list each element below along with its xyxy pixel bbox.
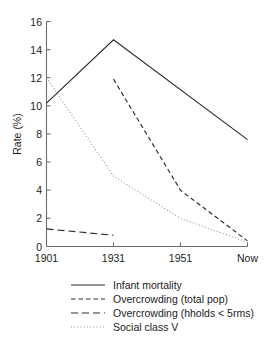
y-tick-label-4: 4 <box>36 184 42 196</box>
y-tick-label-6: 6 <box>36 156 42 168</box>
series-line-overcrowding-total-pop <box>114 79 248 241</box>
x-tick-label-1901: 1901 <box>35 252 59 264</box>
x-tick-label-1951: 1951 <box>169 252 193 264</box>
series-line-infant-mortality <box>47 40 248 140</box>
y-tick-label-12: 12 <box>30 72 42 84</box>
y-tick-label-8: 8 <box>36 128 42 140</box>
chart-figure: 16 14 12 10 8 6 4 2 0 1901 1931 1951 Now… <box>0 0 271 343</box>
legend-label-overcrowding-total-pop: Overcrowding (total pop) <box>113 293 228 305</box>
legend-label-overcrowding-hholds: Overcrowding (hholds < 5rms) <box>113 307 254 319</box>
y-tick-label-14: 14 <box>30 44 42 56</box>
x-tick-marks <box>47 243 248 247</box>
chart-legend: Infant mortality Overcrowding (total pop… <box>71 279 254 333</box>
y-axis-title: Rate (%) <box>11 113 23 154</box>
line-chart: 16 14 12 10 8 6 4 2 0 1901 1931 1951 Now… <box>0 0 271 343</box>
y-tick-label-10: 10 <box>30 100 42 112</box>
y-tick-label-2: 2 <box>36 212 42 224</box>
series-line-overcrowding-hholds <box>47 229 114 235</box>
y-tick-label-0: 0 <box>36 241 42 253</box>
y-tick-marks <box>47 22 51 247</box>
x-tick-label-now: Now <box>237 252 258 264</box>
y-tick-label-16: 16 <box>30 16 42 28</box>
legend-label-infant-mortality: Infant mortality <box>113 279 183 291</box>
legend-label-social-class-v: Social class V <box>113 321 178 333</box>
x-tick-label-1931: 1931 <box>102 252 126 264</box>
